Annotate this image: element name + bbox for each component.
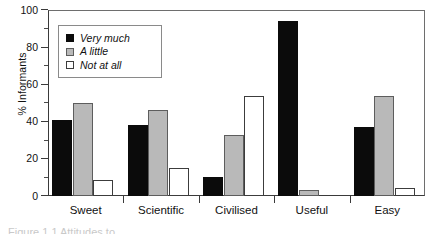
legend-item-very-much: Very much [66, 32, 154, 45]
legend-swatch-icon-very-much [66, 34, 74, 42]
bar-easy-a-little [374, 96, 394, 196]
x-category-label-scientific: Scientific [123, 204, 198, 216]
bar-easy-not-at-all [395, 188, 415, 196]
legend-label-not-at-all: Not at all [80, 60, 121, 71]
x-category-label-useful: Useful [274, 204, 349, 216]
y-tick-20 [41, 158, 48, 159]
legend-item-not-at-all: Not at all [66, 59, 154, 72]
bar-scientific-a-little [148, 110, 168, 196]
legend-swatch-icon-a-little [66, 48, 74, 56]
x-category-label-sweet: Sweet [48, 204, 123, 216]
bar-sweet-not-at-all [93, 180, 113, 196]
y-tick-label-100: 100 [0, 5, 38, 16]
bar-chart-figure: % Informants 020406080100 SweetScientifi… [0, 0, 434, 234]
x-category-label-civilised: Civilised [199, 204, 274, 216]
legend-label-very-much: Very much [80, 33, 130, 44]
bar-sweet-very-much [52, 120, 72, 196]
x-tick-0 [123, 196, 124, 203]
y-tick-label-80: 80 [0, 42, 38, 53]
bar-scientific-not-at-all [169, 168, 189, 196]
x-tick-2 [274, 196, 275, 203]
legend-label-a-little: A little [80, 46, 108, 57]
bar-scientific-very-much [128, 125, 148, 196]
bar-civilised-a-little [224, 135, 244, 196]
legend-swatch-icon-not-at-all [66, 61, 74, 69]
y-tick-label-60: 60 [0, 79, 38, 90]
y-tick-100 [41, 9, 48, 10]
chart-legend: Very much A little Not at all [58, 25, 162, 78]
y-tick-60 [41, 84, 48, 85]
bar-useful-a-little [299, 190, 319, 196]
y-tick-label-0: 0 [0, 191, 38, 202]
y-tick-label-20: 20 [0, 153, 38, 164]
legend-item-a-little: A little [66, 45, 154, 58]
bar-easy-very-much [354, 127, 374, 196]
y-tick-label-40: 40 [0, 116, 38, 127]
y-tick-80 [41, 47, 48, 48]
figure-caption-clipped: Figure 1.1 Attitudes to [8, 226, 308, 234]
y-tick-0 [41, 195, 48, 196]
bar-sweet-a-little [73, 103, 93, 196]
bar-useful-very-much [278, 21, 298, 196]
x-tick-3 [350, 196, 351, 203]
x-category-label-easy: Easy [350, 204, 425, 216]
y-tick-40 [41, 121, 48, 122]
bar-civilised-very-much [203, 177, 223, 196]
x-tick-1 [199, 196, 200, 203]
figure-caption-text: Figure 1.1 Attitudes to [8, 226, 308, 234]
bar-civilised-not-at-all [244, 96, 264, 196]
